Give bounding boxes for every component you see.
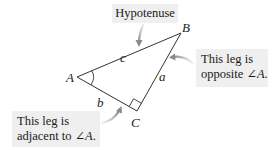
angle-symbol-icon: ∠: [75, 129, 85, 143]
opposite-arrow-icon: [169, 54, 193, 64]
side-b: [77, 77, 137, 111]
hypotenuse-callout: Hypotenuse: [112, 4, 178, 23]
opposite-leg-callout: This leg is opposite ∠A.: [196, 49, 268, 87]
right-triangle-diagram: A B C c a b Hypotenuse This leg is oppos…: [0, 0, 275, 150]
angle-variable: A: [85, 129, 93, 143]
opposite-callout-line2: opposite ∠A.: [201, 67, 263, 82]
side-label-a: a: [159, 70, 166, 83]
opposite-callout-suffix: .: [265, 67, 268, 81]
side-label-c: c: [120, 51, 126, 64]
adjacent-arrow-icon: [102, 106, 122, 123]
adjacent-callout-suffix: .: [93, 129, 96, 143]
angle-variable: A: [257, 67, 265, 81]
opposite-callout-line1: This leg is: [201, 52, 263, 67]
side-label-b: b: [97, 96, 104, 109]
angle-symbol-icon: ∠: [246, 67, 256, 81]
vertex-label-a: A: [66, 71, 74, 84]
adjacent-leg-callout: This leg is adjacent to ∠A.: [12, 111, 100, 147]
vertex-label-c: C: [131, 116, 140, 129]
hypotenuse-arrow-icon: [136, 25, 144, 47]
vertex-label-b: B: [182, 21, 190, 34]
adjacent-callout-prefix: adjacent to: [17, 129, 75, 143]
angle-a-arc-icon: [91, 71, 94, 85]
adjacent-callout-line2: adjacent to ∠A.: [17, 129, 95, 144]
adjacent-callout-line1: This leg is: [17, 114, 95, 129]
hypotenuse-callout-text: Hypotenuse: [115, 6, 175, 21]
opposite-callout-prefix: opposite: [201, 67, 246, 81]
